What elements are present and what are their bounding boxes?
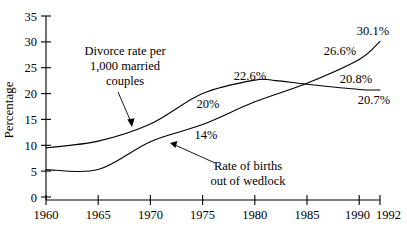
- y-tick-label-5: 5: [31, 165, 37, 179]
- y-tick-label-0: 0: [31, 191, 37, 205]
- chart-figure: 0 5 10 15 20 25 30 35 Percentage 1960 19…: [0, 0, 407, 233]
- point-label-wedlock-30-1: 30.1%: [357, 24, 389, 38]
- x-tick-label-1985: 1985: [295, 208, 320, 222]
- divorce-callout-line-3: couples: [106, 74, 144, 88]
- x-axis-tick-labels: 1960 1965 1970 1975 1980 1985 1990 1992: [34, 208, 402, 222]
- point-label-divorce-20-7: 20.7%: [358, 93, 390, 107]
- wedlock-callout-line-2: out of wedlock: [211, 174, 287, 188]
- point-label-divorce-22-6: 22.6%: [234, 69, 266, 83]
- y-tick-label-10: 10: [25, 139, 38, 153]
- point-label-wedlock-14: 14%: [195, 128, 218, 142]
- divorce-callout-leader: [118, 92, 131, 122]
- wedlock-callout-leader: [175, 145, 215, 163]
- divorce-callout-line-2: 1,000 married: [90, 59, 161, 73]
- y-axis-tick-labels: 0 5 10 15 20 25 30 35: [25, 10, 38, 205]
- y-tick-label-30: 30: [25, 35, 38, 49]
- x-tick-label-1960: 1960: [34, 208, 59, 222]
- divorce-callout-arrowhead: [127, 118, 134, 127]
- x-tick-label-1980: 1980: [242, 208, 267, 222]
- y-tick-label-25: 25: [25, 61, 38, 75]
- x-tick-label-1992: 1992: [376, 208, 401, 222]
- line-chart-svg: 0 5 10 15 20 25 30 35 Percentage 1960 19…: [0, 0, 407, 233]
- x-tick-label-1970: 1970: [138, 208, 163, 222]
- y-axis-title: Percentage: [1, 81, 16, 138]
- point-label-divorce-20-8: 20.8%: [340, 72, 372, 86]
- x-tick-label-1965: 1965: [86, 208, 111, 222]
- point-label-divorce-20: 20%: [197, 97, 220, 111]
- wedlock-callout-arrowhead: [170, 141, 177, 148]
- x-tick-label-1975: 1975: [190, 208, 215, 222]
- x-tick-label-1990: 1990: [345, 208, 370, 222]
- divorce-callout: Divorce rate per 1,000 married couples: [84, 44, 166, 127]
- y-tick-label-20: 20: [25, 87, 38, 101]
- point-label-wedlock-26-6: 26.6%: [324, 44, 356, 58]
- wedlock-callout-line-1: Rate of births: [214, 159, 282, 173]
- divorce-callout-line-1: Divorce rate per: [84, 44, 166, 58]
- y-tick-label-15: 15: [25, 113, 38, 127]
- wedlock-callout: Rate of births out of wedlock: [170, 141, 286, 188]
- y-tick-label-35: 35: [25, 10, 38, 24]
